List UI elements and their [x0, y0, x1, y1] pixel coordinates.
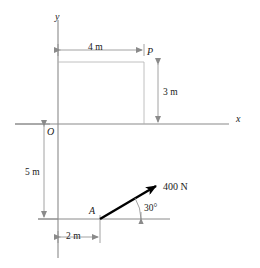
point-label-a: A [89, 206, 95, 216]
origin-label: O [47, 127, 54, 137]
y-axis-label: y [55, 12, 59, 22]
force-magnitude-label: 400 N [163, 182, 188, 192]
statics-diagram: y x O P A 4 m 3 m 5 m 2 m 400 N 30° [0, 0, 260, 268]
x-axis-label: x [236, 114, 240, 124]
point-label-p: P [147, 47, 153, 57]
angle-label-30deg: 30° [144, 204, 157, 214]
diagram-canvas [0, 0, 260, 268]
dimension-label-5m: 5 m [25, 168, 40, 178]
dimension-label-4m: 4 m [88, 43, 103, 53]
dimension-label-3m: 3 m [163, 88, 178, 98]
dimension-label-2m: 2 m [66, 232, 81, 242]
angle-arc-30deg [135, 198, 141, 219]
